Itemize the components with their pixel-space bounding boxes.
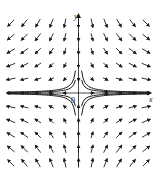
field-arrow (116, 119, 122, 123)
field-arrow (142, 133, 150, 138)
field-arrow (7, 133, 15, 138)
field-arrow (116, 78, 122, 80)
field-arrow (143, 20, 149, 26)
field-arrow (143, 146, 150, 152)
field-arrow (103, 119, 107, 123)
field-arrow (104, 48, 108, 54)
field-arrow (104, 159, 107, 167)
field-arrow (129, 78, 137, 80)
field-arrow (103, 78, 108, 80)
field-arrow (142, 78, 151, 80)
field-arrow (8, 146, 15, 152)
field-arrow (143, 34, 150, 40)
field-arrow (64, 78, 67, 81)
field-arrow (8, 34, 15, 40)
field-arrow (7, 106, 16, 108)
field-arrow (116, 63, 122, 67)
field-arrow (36, 159, 41, 167)
field-arrow (104, 132, 108, 138)
field-arrow (8, 160, 14, 166)
field-arrow (91, 33, 93, 41)
field-arrow (64, 159, 66, 168)
field-arrow (35, 48, 41, 54)
field-arrow (50, 48, 54, 54)
field-arrow (91, 19, 93, 28)
trajectory-curve (8, 80, 76, 93)
field-arrow (64, 33, 66, 41)
field-arrow (91, 119, 93, 124)
field-arrow (91, 48, 93, 54)
field-arrow (64, 106, 67, 109)
field-arrow (8, 20, 14, 26)
field-arrow (129, 106, 137, 108)
field-arrow (129, 34, 135, 40)
field-arrow (91, 132, 93, 138)
field-arrow (104, 145, 108, 152)
field-arrow (36, 19, 41, 27)
field-arrow (117, 159, 122, 167)
field-arrow (104, 33, 108, 40)
field-arrow (50, 19, 53, 27)
field-arrow (64, 119, 66, 124)
trajectory-curve (82, 94, 150, 107)
field-arrow (35, 33, 40, 40)
field-arrow (129, 146, 135, 152)
field-arrow (21, 146, 27, 152)
origin-label: 0 (71, 97, 75, 105)
field-arrow (7, 78, 16, 80)
trajectory-curve (8, 71, 76, 93)
trajectory-curve (82, 80, 150, 93)
field-arrow (91, 63, 93, 68)
field-arrow (22, 160, 28, 167)
field-arrow (35, 119, 41, 123)
field-arrow (7, 49, 15, 54)
y-axis-label: y (74, 13, 78, 21)
field-arrow (7, 63, 15, 66)
field-arrow (64, 48, 66, 54)
field-arrow (49, 63, 53, 67)
field-arrow (91, 106, 94, 109)
phase-portrait (0, 0, 161, 176)
field-arrow (21, 119, 28, 123)
field-arrow (35, 78, 41, 80)
field-arrow (50, 132, 54, 138)
field-arrow (21, 48, 28, 53)
field-arrow (129, 119, 136, 123)
field-arrow (129, 63, 136, 67)
field-arrow (49, 106, 54, 108)
field-arrow (35, 145, 40, 152)
field-arrow (22, 20, 28, 27)
field-arrow (64, 19, 66, 28)
field-arrow (91, 78, 94, 81)
field-arrow (21, 34, 27, 40)
field-arrow (21, 78, 29, 80)
trajectory-curve (8, 94, 76, 107)
field-arrow (21, 63, 28, 67)
field-arrow (21, 132, 28, 137)
field-arrow (116, 48, 122, 54)
field-arrow (142, 63, 150, 66)
trajectory-curve (8, 94, 76, 116)
field-arrow (64, 63, 66, 68)
field-arrow (117, 19, 122, 27)
field-arrow (116, 145, 121, 152)
trajectory-curve (82, 94, 150, 116)
field-arrow (130, 160, 136, 167)
x-axis-label: x (149, 96, 153, 104)
field-arrow (49, 119, 53, 123)
field-arrow (143, 160, 149, 166)
field-arrow (64, 145, 66, 153)
field-arrow (130, 20, 136, 27)
field-arrow (35, 106, 41, 108)
field-arrow (116, 132, 122, 138)
field-arrow (50, 33, 54, 40)
field-arrow (116, 33, 121, 40)
field-arrow (104, 19, 107, 27)
field-arrow (129, 132, 136, 137)
field-arrow (49, 78, 54, 80)
field-arrow (91, 159, 93, 168)
field-arrow (21, 106, 29, 108)
field-arrow (142, 119, 150, 122)
field-arrow (142, 49, 150, 54)
field-arrow (103, 106, 108, 108)
